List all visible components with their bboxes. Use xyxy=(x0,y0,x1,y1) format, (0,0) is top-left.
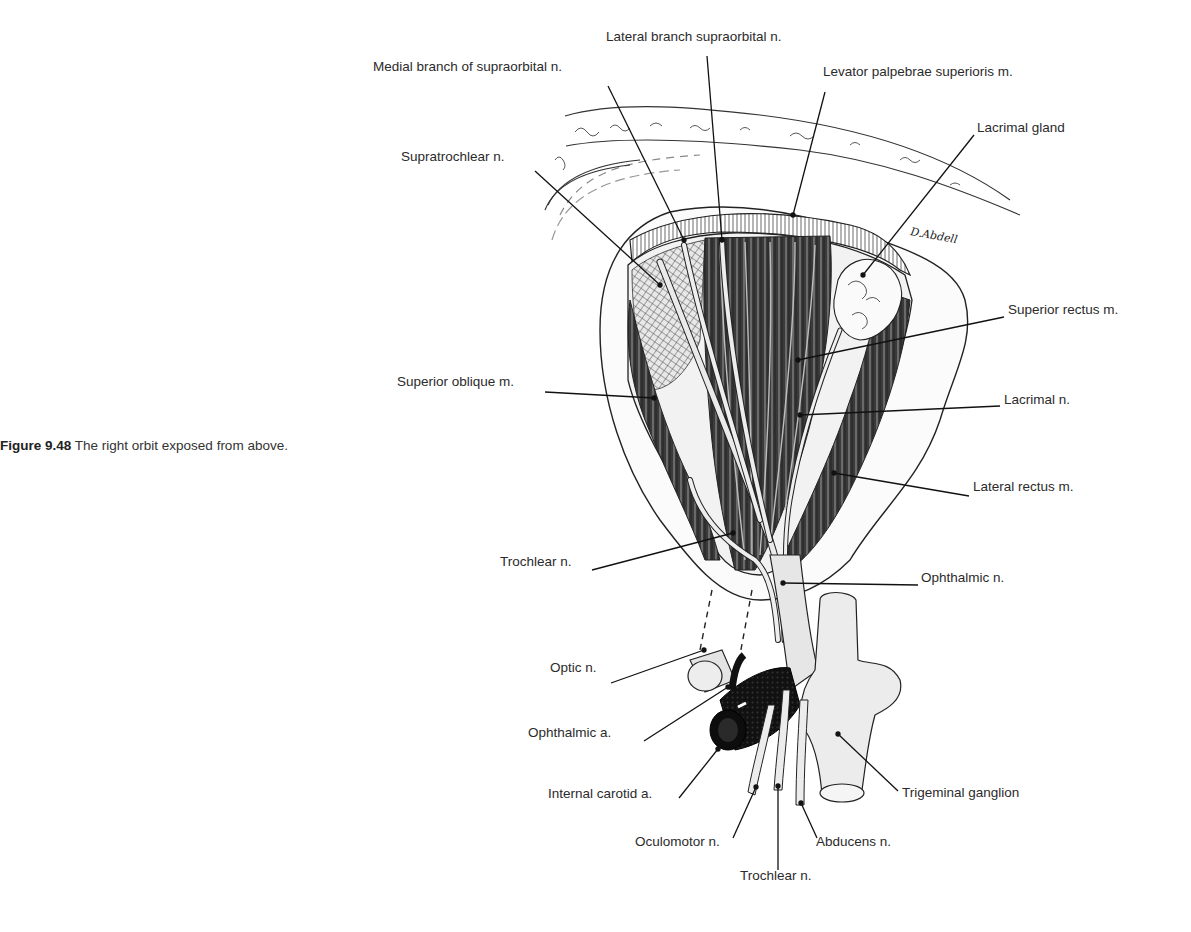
leader-dot-internal-carotid-a xyxy=(716,747,720,751)
leader-internal-carotid-a xyxy=(679,749,718,798)
label-optic-n: Optic n. xyxy=(550,660,597,676)
trigeminal-cut-end xyxy=(820,784,864,802)
leader-dot-trochlear-n-lower xyxy=(776,784,780,788)
leader-dot-lacrimal-n xyxy=(798,413,802,417)
leader-lacrimal-gland xyxy=(863,135,974,275)
leader-dot-levator-palpebrae xyxy=(791,213,795,217)
label-lacrimal-n: Lacrimal n. xyxy=(1004,392,1070,408)
leader-dot-superior-oblique xyxy=(652,396,656,400)
label-superior-rectus: Superior rectus m. xyxy=(1008,302,1118,318)
optic-canal-dashes xyxy=(700,590,752,655)
label-abducens-n: Abducens n. xyxy=(816,834,891,850)
label-internal-carotid-a: Internal carotid a. xyxy=(548,786,652,802)
label-lateral-branch-supraorbital: Lateral branch supraorbital n. xyxy=(606,29,782,45)
leader-dot-lateral-rectus xyxy=(832,471,836,475)
leader-dot-trigeminal-ganglion xyxy=(836,732,840,736)
leader-dot-ophthalmic-n xyxy=(781,581,785,585)
leader-dot-trochlear-n-upper xyxy=(731,531,735,535)
leader-dot-optic-n xyxy=(702,648,706,652)
label-lateral-rectus: Lateral rectus m. xyxy=(973,479,1074,495)
leader-dot-abducens-n xyxy=(799,801,803,805)
label-trigeminal-ganglion: Trigeminal ganglion xyxy=(902,785,1019,801)
label-superior-oblique: Superior oblique m. xyxy=(397,374,514,390)
label-levator-palpebrae: Levator palpebrae superioris m. xyxy=(823,64,1013,80)
leader-levator-palpebrae xyxy=(793,92,825,215)
leader-dot-oculomotor-n xyxy=(754,785,758,789)
label-trochlear-n-lower: Trochlear n. xyxy=(740,868,812,884)
label-supratrochlear: Supratrochlear n. xyxy=(401,149,505,165)
leader-abducens-n xyxy=(801,803,817,838)
leader-dot-lacrimal-gland xyxy=(861,273,865,277)
leader-dot-ophthalmic-a xyxy=(726,685,730,689)
artist-signature: D.Abdell xyxy=(908,225,958,246)
bone-texture xyxy=(555,123,960,185)
leader-dot-supratrochlear xyxy=(658,283,662,287)
label-lacrimal-gland: Lacrimal gland xyxy=(977,120,1065,136)
label-ophthalmic-a: Ophthalmic a. xyxy=(528,725,611,741)
label-oculomotor-n: Oculomotor n. xyxy=(635,834,720,850)
leader-dot-lateral-branch-supraorbital xyxy=(720,238,724,242)
label-trochlear-n-upper: Trochlear n. xyxy=(500,554,572,570)
label-ophthalmic-n: Ophthalmic n. xyxy=(921,570,1004,586)
leader-dot-medial-branch-supraorbital xyxy=(682,238,686,242)
label-medial-branch-supraorbital: Medial branch of supraorbital n. xyxy=(373,59,562,75)
leader-oculomotor-n xyxy=(733,787,756,838)
trigeminal-ganglion-shape xyxy=(801,593,901,796)
leader-dot-superior-rectus xyxy=(796,358,800,362)
